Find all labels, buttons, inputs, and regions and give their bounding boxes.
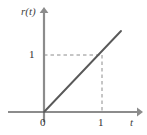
plot-canvas [0,0,147,135]
y-axis-label: r(t) [21,6,36,17]
y-tick-label-1: 1 [29,49,35,60]
arrow-right-icon [137,108,143,117]
origin-label: 0 [40,117,46,128]
arrow-up-icon [40,7,49,13]
x-axis-label: t [130,117,133,128]
ramp-curve [44,31,121,112]
ramp-function-figure: r(t) t 1 1 0 [0,0,147,135]
x-tick-label-1: 1 [98,117,104,128]
